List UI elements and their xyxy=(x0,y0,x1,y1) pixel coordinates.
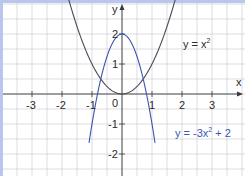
frame-top xyxy=(0,0,245,3)
origin-label: 0 xyxy=(112,97,118,109)
y-axis-label: y xyxy=(112,3,118,15)
y-tick-label: -1 xyxy=(108,118,118,130)
frame-left xyxy=(0,0,3,176)
graph: y x 0 -3-2-112321-1-2 y = x2 y = -3x2 + … xyxy=(0,0,245,176)
x-tick-label: 2 xyxy=(179,99,185,111)
x-tick-label: -3 xyxy=(26,99,36,111)
y-tick-label: 2 xyxy=(112,28,118,40)
x-tick-label: 1 xyxy=(149,99,155,111)
x-tick-label: -2 xyxy=(56,99,66,111)
x-tick-label: -1 xyxy=(86,99,96,111)
x-tick-label: 3 xyxy=(209,99,215,111)
equation-label-inverted-parabola: y = -3x2 + 2 xyxy=(175,126,231,139)
y-tick-label: 1 xyxy=(112,58,118,70)
equation-label-parabola: y = x2 xyxy=(183,37,211,50)
y-tick-label: -2 xyxy=(108,148,118,160)
plot-background xyxy=(0,0,245,176)
x-axis-label: x xyxy=(236,76,242,88)
